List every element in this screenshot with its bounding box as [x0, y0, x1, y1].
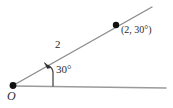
- polar-axis-line: [13, 86, 166, 88]
- origin-point-marker: [10, 82, 17, 89]
- figure-canvas: [0, 0, 173, 108]
- radius-length-label: 2: [55, 39, 61, 50]
- polar-coordinate-figure: O 2 30° (2, 30°): [0, 0, 173, 108]
- angle-indicator-arrow: [49, 66, 54, 87]
- origin-label: O: [7, 90, 16, 102]
- plotted-point-marker: [113, 22, 119, 28]
- terminal-ray-line: [13, 7, 152, 86]
- angle-measure-label: 30°: [56, 64, 71, 75]
- polar-coordinates-label: (2, 30°): [121, 25, 152, 35]
